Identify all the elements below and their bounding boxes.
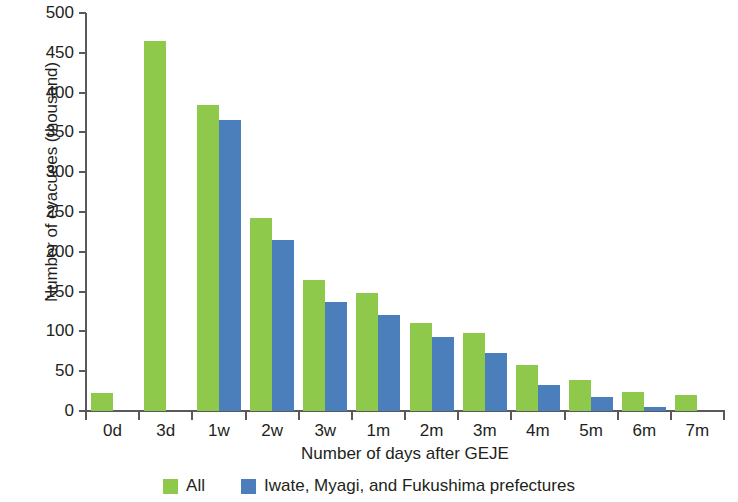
x-axis-tick-label: 1m	[367, 421, 391, 441]
x-axis-tick-label: 4m	[526, 421, 550, 441]
x-axis-tick	[85, 412, 87, 420]
x-axis-tick	[138, 412, 140, 420]
x-axis-tick-label: 2w	[261, 421, 283, 441]
chart-legend: AllIwate, Myagi, and Fukushima prefectur…	[0, 476, 738, 496]
bar-iwate-myagi-and-fukushima-prefectures-1w	[219, 120, 241, 411]
bar-all-1m	[356, 293, 378, 411]
bar-iwate-myagi-and-fukushima-prefectures-6m	[644, 407, 666, 411]
x-axis-tick-label: 3m	[473, 421, 497, 441]
bar-all-7m	[675, 395, 697, 411]
x-axis-tick	[298, 412, 300, 420]
legend-item: All	[163, 476, 205, 496]
plot-area	[86, 13, 724, 411]
bar-iwate-myagi-and-fukushima-prefectures-5m	[591, 397, 613, 411]
x-axis-tick	[564, 412, 566, 420]
x-axis-tick	[404, 412, 406, 420]
bar-iwate-myagi-and-fukushima-prefectures-3m	[485, 353, 507, 411]
bar-all-5m	[569, 380, 591, 411]
bar-all-2m	[410, 323, 432, 411]
x-axis-tick	[617, 412, 619, 420]
bar-iwate-myagi-and-fukushima-prefectures-2w	[272, 240, 294, 411]
x-axis-tick-label: 7m	[686, 421, 710, 441]
bar-iwate-myagi-and-fukushima-prefectures-1m	[378, 315, 400, 411]
green-swatch-icon	[163, 479, 178, 494]
bar-all-3d	[144, 41, 166, 411]
y-axis-tick-label: 200	[4, 242, 74, 262]
evacuees-bar-chart: Number of evacuees (thousand) 0501001502…	[0, 0, 738, 502]
x-axis-tick-label: 5m	[579, 421, 603, 441]
x-axis-tick	[723, 412, 725, 420]
bar-iwate-myagi-and-fukushima-prefectures-4m	[538, 385, 560, 411]
x-axis-tick	[351, 412, 353, 420]
x-axis-tick	[457, 412, 459, 420]
x-axis-tick	[670, 412, 672, 420]
bar-all-2w	[250, 218, 272, 411]
y-axis-tick-label: 150	[4, 282, 74, 302]
blue-swatch-icon	[241, 479, 256, 494]
bar-all-6m	[622, 392, 644, 411]
x-axis-tick	[510, 412, 512, 420]
y-axis-tick-label: 400	[4, 83, 74, 103]
y-axis-tick-label: 450	[4, 43, 74, 63]
y-axis-tick-label: 250	[4, 202, 74, 222]
y-axis-tick-label: 50	[4, 361, 74, 381]
y-axis-tick-label: 0	[4, 401, 74, 421]
x-axis-tick-label: 3d	[156, 421, 175, 441]
bar-all-1w	[197, 105, 219, 411]
bar-all-3w	[303, 280, 325, 411]
legend-label: All	[186, 476, 205, 496]
x-axis-tick	[245, 412, 247, 420]
bar-iwate-myagi-and-fukushima-prefectures-3w	[325, 302, 347, 411]
y-axis-tick-label: 300	[4, 162, 74, 182]
y-axis-tick-label: 350	[4, 122, 74, 142]
y-axis-tick-label: 500	[4, 3, 74, 23]
legend-item: Iwate, Myagi, and Fukushima prefectures	[241, 476, 575, 496]
bar-all-4m	[516, 365, 538, 411]
x-axis-tick-label: 6m	[632, 421, 656, 441]
x-axis-tick-label: 2m	[420, 421, 444, 441]
bar-all-3m	[463, 333, 485, 411]
x-axis-tick-label: 0d	[103, 421, 122, 441]
y-axis-tick-label: 100	[4, 321, 74, 341]
legend-label: Iwate, Myagi, and Fukushima prefectures	[264, 476, 575, 496]
x-axis-title: Number of days after GEJE	[86, 444, 724, 464]
x-axis-tick-label: 1w	[208, 421, 230, 441]
x-axis-tick-label: 3w	[314, 421, 336, 441]
bar-all-0d	[91, 393, 113, 411]
bar-iwate-myagi-and-fukushima-prefectures-2m	[432, 337, 454, 411]
x-axis-tick	[191, 412, 193, 420]
